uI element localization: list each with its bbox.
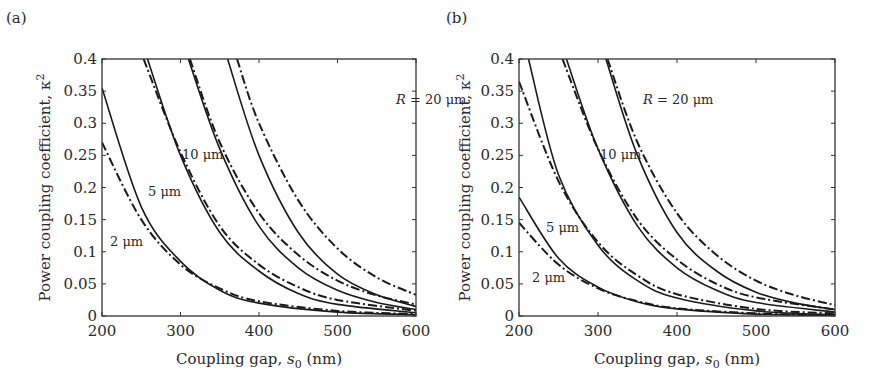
y-tick-label: 0.05 <box>481 275 514 293</box>
y-tick-label: 0.35 <box>64 82 97 100</box>
series-line <box>102 143 416 315</box>
x-axis-label: Coupling gap, s0 (nm) <box>594 350 760 371</box>
series-line <box>608 59 836 305</box>
y-tick-label: 0.2 <box>490 179 514 197</box>
y-tick-label: 0.25 <box>481 146 514 164</box>
annotation-r2: 2 μm <box>110 234 143 249</box>
x-tick-label: 500 <box>323 322 352 340</box>
x-tick-label: 200 <box>505 322 534 340</box>
chart-panel-b: (b)00.050.10.150.20.250.30.350.420030040… <box>446 9 849 371</box>
series-line <box>148 59 417 313</box>
x-tick-label: 300 <box>166 322 195 340</box>
x-tick-label: 400 <box>663 322 692 340</box>
y-axis-label: Power coupling coefficient, κ2 <box>454 74 474 302</box>
y-tick-label: 0.15 <box>481 211 514 229</box>
y-tick-label: 0.4 <box>73 50 97 68</box>
y-tick-label: 0.4 <box>490 50 514 68</box>
x-tick-label: 600 <box>821 322 850 340</box>
annotation-r10: 10 μm <box>182 147 223 162</box>
panel-label: (b) <box>446 9 467 27</box>
x-axis-label: Coupling gap, s0 (nm) <box>176 350 342 371</box>
y-axis-label: Power coupling coefficient, κ2 <box>34 74 54 302</box>
chart-panel-a: (a)00.050.10.150.20.250.30.350.420030040… <box>6 9 466 371</box>
y-tick-label: 0.05 <box>64 275 97 293</box>
series-line <box>190 59 416 304</box>
annotation-r5: 5 μm <box>148 184 181 199</box>
panel-label: (a) <box>6 9 27 27</box>
x-tick-label: 200 <box>88 322 117 340</box>
series-line <box>144 59 416 311</box>
y-tick-label: 0.15 <box>64 211 97 229</box>
series-line <box>237 59 416 295</box>
y-tick-label: 0.1 <box>73 243 97 261</box>
figure: (a)00.050.10.150.20.250.30.350.420030040… <box>0 0 878 392</box>
x-tick-label: 400 <box>245 322 274 340</box>
annotation-r2: 2 μm <box>532 270 565 285</box>
x-tick-label: 600 <box>402 322 431 340</box>
y-tick-label: 0.25 <box>64 146 97 164</box>
annotation-r5: 5 μm <box>546 220 579 235</box>
annotation-r20: R = 20 μm <box>642 92 713 107</box>
annotation-r10: 10 μm <box>600 147 641 162</box>
series-line <box>606 59 835 310</box>
series-line <box>188 59 416 310</box>
y-tick-label: 0.3 <box>490 114 514 132</box>
y-tick-label: 0.35 <box>481 82 514 100</box>
x-tick-label: 500 <box>742 322 771 340</box>
y-tick-label: 0.3 <box>73 114 97 132</box>
x-tick-label: 300 <box>584 322 613 340</box>
y-tick-label: 0.1 <box>490 243 514 261</box>
y-tick-label: 0.2 <box>73 179 97 197</box>
series-line <box>519 82 835 314</box>
series-line <box>102 88 416 315</box>
